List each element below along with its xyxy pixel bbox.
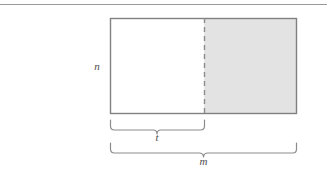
total-width-label-m: m (200, 155, 208, 167)
height-label-n: n (94, 60, 100, 72)
geometry-figure: n t m (0, 0, 327, 178)
unshaded-region (110, 18, 204, 114)
shaded-region (204, 18, 297, 114)
